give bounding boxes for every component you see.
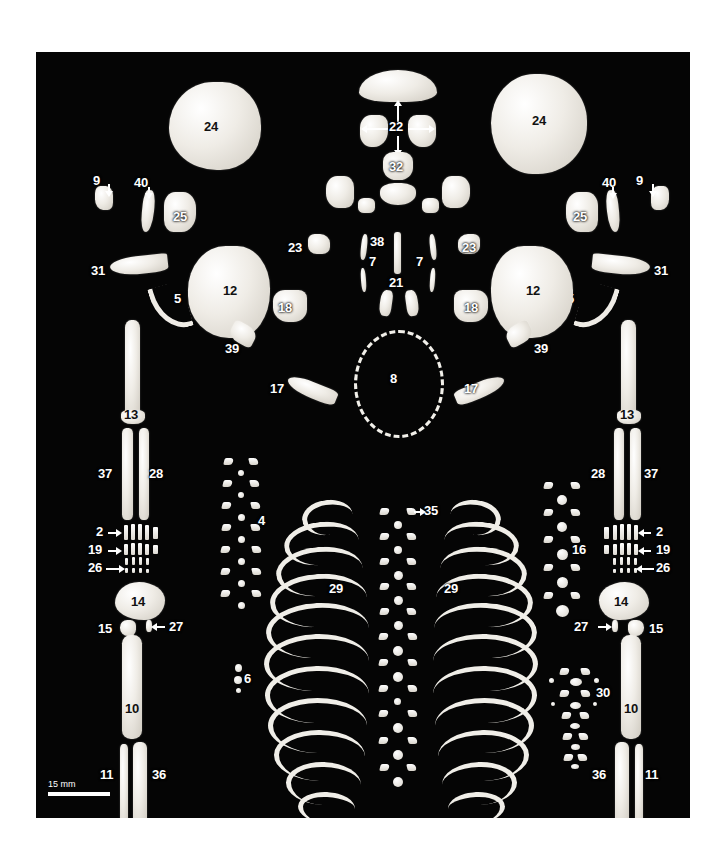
label-17-right: 17 xyxy=(464,382,478,395)
label-36-right: 36 xyxy=(592,768,606,781)
label-25-right: 25 xyxy=(573,210,587,223)
bone-scapula-right xyxy=(591,253,651,277)
label-7-right: 7 xyxy=(416,255,423,268)
bone-fibula-left xyxy=(120,744,128,818)
cranial-outline-dashed xyxy=(354,330,444,438)
label-8: 8 xyxy=(390,372,397,385)
label-40-left: 40 xyxy=(134,176,148,189)
label-23-right: 23 xyxy=(462,241,476,254)
label-4: 4 xyxy=(258,514,265,527)
label-26-right-hand: 26 xyxy=(656,561,670,574)
label-31-right: 31 xyxy=(654,264,668,277)
arrowhead-26-left-hand xyxy=(119,565,125,573)
bone-frontal xyxy=(359,70,437,102)
label-24-left: 24 xyxy=(204,120,218,133)
label-13-left: 13 xyxy=(124,408,138,421)
bone-mandible-left xyxy=(285,373,339,407)
bone-hyoid-a xyxy=(235,664,242,672)
bone-femur-right xyxy=(621,635,641,739)
arrow-26-left-hand xyxy=(106,568,120,570)
label-12-right: 12 xyxy=(526,284,540,297)
label-10-left: 10 xyxy=(125,702,139,715)
label-29-right: 29 xyxy=(444,582,458,595)
label-9-right: 9 xyxy=(636,174,643,187)
bone-ischium-left xyxy=(120,620,136,636)
bone-hyoid-c xyxy=(236,688,241,693)
label-22: 22 xyxy=(389,120,403,133)
arrowhead-2-left xyxy=(116,529,122,537)
bone-cranial-fragment-right xyxy=(442,176,470,208)
arrowhead-19-left xyxy=(116,547,122,555)
label-21: 21 xyxy=(389,276,403,289)
label-16: 16 xyxy=(572,543,586,556)
label-18-right: 18 xyxy=(464,301,478,314)
label-31-left: 31 xyxy=(91,264,105,277)
label-10-right: 10 xyxy=(624,702,638,715)
label-5-left: 5 xyxy=(174,292,181,305)
label-2-left: 2 xyxy=(96,525,103,538)
label-6: 6 xyxy=(244,672,251,685)
bone-femur-left xyxy=(122,635,142,739)
arrow-26-right-hand xyxy=(640,568,654,570)
label-7-left: 7 xyxy=(369,255,376,268)
arrowhead-22-left xyxy=(361,125,367,133)
label-37-right: 37 xyxy=(644,467,658,480)
label-15-left: 15 xyxy=(98,622,112,635)
arrowhead-40-left xyxy=(145,193,153,199)
label-26-left-hand: 26 xyxy=(88,561,102,574)
bone-ischium-right xyxy=(628,620,644,636)
arrowhead-2-right xyxy=(638,529,644,537)
label-14-right: 14 xyxy=(614,595,628,608)
bone-radius-left xyxy=(139,428,149,520)
label-19-left: 19 xyxy=(88,543,102,556)
label-11-right: 11 xyxy=(645,768,658,781)
scale-bar: 15 mm xyxy=(48,779,110,796)
label-35: 35 xyxy=(424,504,438,517)
label-25-left: 25 xyxy=(173,210,187,223)
scale-bar-caption: 15 mm xyxy=(48,779,110,789)
arrowhead-27-right xyxy=(606,623,612,631)
bone-clavicle-right xyxy=(573,280,620,335)
bone-hyoid-b xyxy=(234,676,242,684)
arrowhead-26-right-hand xyxy=(636,565,642,573)
label-14-left: 14 xyxy=(131,595,145,608)
label-15-right: 15 xyxy=(649,622,663,635)
scale-bar-line xyxy=(48,792,110,796)
bone-vomer xyxy=(394,232,401,274)
bone-23-left xyxy=(308,234,330,254)
bone-humerus-right xyxy=(621,320,636,418)
label-27-right: 27 xyxy=(574,620,588,633)
bone-sphenoid-body xyxy=(380,183,416,205)
bone-rib-first-right-upper xyxy=(429,234,438,260)
bone-sphenoid-wing-right xyxy=(422,198,439,213)
bone-humerus-left xyxy=(125,320,140,418)
bone-maxilla-left xyxy=(378,289,394,316)
bone-pubis-right xyxy=(612,620,618,632)
bone-ethmoid-left xyxy=(95,186,113,210)
label-28-left: 28 xyxy=(149,467,163,480)
label-38: 38 xyxy=(370,235,384,248)
arrowhead-22-up xyxy=(394,100,402,106)
label-39-left: 39 xyxy=(225,342,239,355)
label-24-right: 24 xyxy=(532,114,546,127)
bone-scapula-left xyxy=(109,253,169,277)
label-32: 32 xyxy=(389,160,403,173)
arrowhead-9-right xyxy=(649,191,657,197)
arrowhead-27-left xyxy=(151,623,157,631)
bone-ulna-left xyxy=(122,428,133,520)
bone-rib-first-left-upper xyxy=(360,234,369,260)
bone-maxilla-right xyxy=(404,289,420,316)
bone-ulna-right xyxy=(630,428,641,520)
label-13-right: 13 xyxy=(620,408,634,421)
label-17-left: 17 xyxy=(270,382,284,395)
label-19-right: 19 xyxy=(656,543,670,556)
bone-tibia-right xyxy=(615,742,629,818)
bone-rib-first-right-lower xyxy=(429,268,436,292)
arrowhead-40-right xyxy=(609,193,617,199)
skeleton-figure-panel: 24 24 22 32 23 23 38 7 7 21 9 xyxy=(36,52,690,818)
bone-fibula-right xyxy=(635,744,643,818)
label-9-left: 9 xyxy=(93,174,100,187)
arrow-22-right xyxy=(408,128,430,130)
arrowhead-19-right xyxy=(638,547,644,555)
label-30: 30 xyxy=(596,686,610,699)
